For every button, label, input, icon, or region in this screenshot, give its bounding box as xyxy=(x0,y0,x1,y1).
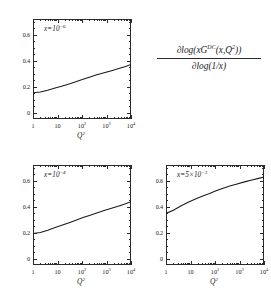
x-axis-minor-tick xyxy=(178,263,179,265)
y-axis-minor-tick xyxy=(129,200,131,201)
x-axis-tick xyxy=(264,165,265,169)
y-axis-minor-tick xyxy=(129,100,131,101)
x-axis-minor-tick xyxy=(202,165,203,167)
y-axis-minor-tick xyxy=(262,194,264,195)
y-axis-minor-tick xyxy=(33,246,35,247)
y-axis-minor-tick xyxy=(129,174,131,175)
x-axis-minor-tick xyxy=(232,263,233,265)
x-axis-tick xyxy=(58,261,59,265)
x-axis-minor-tick xyxy=(45,165,46,167)
y-axis-minor-tick xyxy=(262,181,264,182)
x-axis-minor-tick xyxy=(75,117,76,119)
x-axis-minor-tick xyxy=(263,165,264,167)
x-axis-minor-tick xyxy=(238,165,239,167)
annotation-exponent: −4 xyxy=(60,170,66,175)
x-axis-minor-tick xyxy=(118,117,119,119)
x-axis-tick xyxy=(264,261,265,265)
y-axis-minor-tick xyxy=(33,54,35,55)
y-axis-minor-tick xyxy=(129,239,131,240)
x-axis-minor-tick xyxy=(75,165,76,167)
y-axis-minor-tick xyxy=(166,181,168,182)
y-axis-minor-tick xyxy=(262,252,264,253)
x-axis-tick xyxy=(33,19,34,23)
x-axis-minor-tick xyxy=(81,19,82,21)
x-axis-tick xyxy=(191,261,192,265)
x-axis-tick-label: 1 xyxy=(155,268,177,275)
x-axis-tick-label: 102 xyxy=(204,268,226,275)
y-axis-minor-tick xyxy=(129,80,131,81)
x-axis-minor-tick xyxy=(56,165,57,167)
x-axis-minor-tick xyxy=(89,19,90,21)
curve-container xyxy=(33,19,131,119)
y-axis-minor-tick xyxy=(33,67,35,68)
y-axis-minor-tick xyxy=(129,207,131,208)
y-axis-tick-label: 0.4 xyxy=(8,204,30,210)
y-axis-tick xyxy=(127,87,131,88)
x-axis-minor-tick xyxy=(40,19,41,21)
x-axis-minor-tick xyxy=(121,117,122,119)
y-axis-minor-tick xyxy=(166,220,168,221)
y-axis-minor-tick xyxy=(166,246,168,247)
x-axis-title: Q2 xyxy=(61,277,101,286)
x-axis-minor-tick xyxy=(45,263,46,265)
y-axis-tick xyxy=(166,259,170,260)
y-axis-tick-label: 0.6 xyxy=(8,178,30,184)
curve-svg xyxy=(33,19,131,119)
y-axis-minor-tick xyxy=(262,200,264,201)
x-axis-tick xyxy=(33,261,34,265)
x-axis-tick-label: 103 xyxy=(96,268,118,275)
x-axis-tick-label: 10 xyxy=(180,268,202,275)
x-axis-minor-tick xyxy=(198,165,199,167)
x-axis-minor-tick xyxy=(121,263,122,265)
x-axis-minor-tick xyxy=(181,165,182,167)
x-axis-tick xyxy=(166,165,167,169)
x-axis-minor-tick xyxy=(130,263,131,265)
y-axis-minor-tick xyxy=(33,207,35,208)
x-axis-minor-tick xyxy=(227,263,228,265)
x-axis-minor-tick xyxy=(124,19,125,21)
y-axis-minor-tick xyxy=(33,181,35,182)
y-axis-minor-tick xyxy=(262,187,264,188)
x-axis-minor-tick xyxy=(81,165,82,167)
x-axis-tick-label: 102 xyxy=(71,122,93,129)
y-axis-tick-label: 0.2 xyxy=(8,84,30,90)
x-axis-minor-tick xyxy=(94,263,95,265)
y-axis-minor-tick xyxy=(129,61,131,62)
x-axis-tick xyxy=(107,165,108,169)
x-axis-minor-tick xyxy=(114,19,115,21)
x-axis-tick-label: 104 xyxy=(253,268,271,275)
x-axis-minor-tick xyxy=(72,263,73,265)
x-axis-minor-tick xyxy=(99,165,100,167)
x-axis-minor-tick xyxy=(118,19,119,21)
x-axis-minor-tick xyxy=(72,165,73,167)
y-axis-minor-tick xyxy=(33,220,35,221)
y-axis-minor-tick xyxy=(33,226,35,227)
x-axis-minor-tick xyxy=(238,263,239,265)
x-axis-tick xyxy=(33,165,34,169)
x-axis-minor-tick xyxy=(75,263,76,265)
y-axis-tick xyxy=(33,259,37,260)
x-axis-tick-label: 1 xyxy=(22,268,44,275)
x-axis-minor-tick xyxy=(205,165,206,167)
y-axis-minor-tick xyxy=(262,207,264,208)
x-axis-minor-tick xyxy=(40,165,41,167)
y-axis-tick-label: 0.6 xyxy=(8,32,30,38)
x-axis-minor-tick xyxy=(45,19,46,21)
x-axis-tick xyxy=(131,261,132,265)
x-axis-minor-tick xyxy=(114,263,115,265)
x-axis-minor-tick xyxy=(48,117,49,119)
x-axis-minor-tick xyxy=(257,165,258,167)
x-axis-tick xyxy=(131,19,132,23)
x-axis-tick xyxy=(82,115,83,119)
x-axis-minor-tick xyxy=(254,263,255,265)
x-axis-minor-tick xyxy=(124,165,125,167)
x-axis-minor-tick xyxy=(198,263,199,265)
x-axis-minor-tick xyxy=(65,19,66,21)
x-axis-minor-tick xyxy=(48,19,49,21)
x-axis-minor-tick xyxy=(89,263,90,265)
y-axis-tick xyxy=(33,233,37,234)
y-axis-minor-tick xyxy=(33,100,35,101)
x-axis-minor-tick xyxy=(89,117,90,119)
y-axis-minor-tick xyxy=(33,28,35,29)
x-axis-minor-tick xyxy=(97,165,98,167)
